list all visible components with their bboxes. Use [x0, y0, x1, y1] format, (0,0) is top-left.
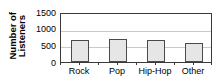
- y-tick-label-0: 0: [51, 59, 56, 68]
- y-axis-title: Number of Listeners: [0, 0, 34, 72]
- bar-pop: [109, 39, 126, 62]
- x-axis-tick-labels: Rock Pop Hip-Hop Other: [60, 66, 212, 80]
- x-tick-mark: [117, 62, 118, 65]
- plot-area: [60, 13, 212, 63]
- x-tick-mark: [174, 62, 175, 65]
- y-axis-title-line-2: Listeners: [17, 15, 27, 57]
- bars-layer: [61, 14, 211, 62]
- x-tick-label-hip-hop: Hip-Hop: [136, 66, 174, 77]
- bar-other: [185, 43, 202, 62]
- x-tick-mark: [136, 62, 137, 65]
- x-axis-ticks: [60, 62, 212, 65]
- y-tick-label-1500: 1500: [36, 9, 56, 18]
- x-tick-mark: [211, 62, 212, 65]
- x-tick-label-pop: Pop: [98, 66, 136, 77]
- bar-chart-figure: Number of Listeners 1500 1000 500 0 Rock…: [0, 0, 220, 82]
- y-axis-tick-labels: 1500 1000 500 0: [30, 9, 58, 63]
- x-tick-mark: [79, 62, 80, 65]
- x-tick-label-other: Other: [174, 66, 212, 77]
- y-tick-label-1000: 1000: [36, 25, 56, 34]
- bar-rock: [71, 40, 88, 62]
- x-tick-label-rock: Rock: [60, 66, 98, 77]
- x-tick-mark: [193, 62, 194, 65]
- bar-hip-hop: [147, 40, 164, 62]
- x-tick-mark: [60, 62, 61, 65]
- y-tick-label-500: 500: [41, 42, 56, 51]
- x-tick-mark: [98, 62, 99, 65]
- x-tick-mark: [155, 62, 156, 65]
